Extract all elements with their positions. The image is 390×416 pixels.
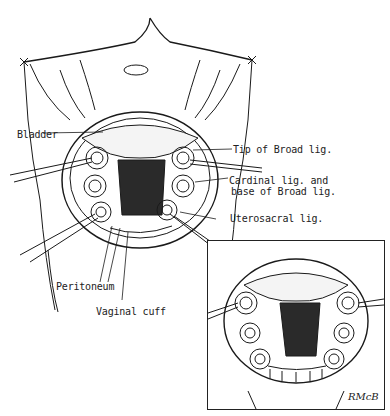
inset-drawing bbox=[208, 241, 384, 409]
illustration-canvas: Bladder Tip of Broad lig. Cardinal lig. … bbox=[0, 0, 390, 416]
artist-signature: RMcB bbox=[348, 391, 379, 402]
label-peritoneum: Peritoneum bbox=[56, 281, 114, 292]
label-vaginal-cuff: Vaginal cuff bbox=[96, 306, 166, 317]
inset-panel: RMcB bbox=[207, 240, 385, 410]
label-bladder: Bladder bbox=[17, 129, 58, 140]
label-cardinal-lig-2: base of Broad lig. bbox=[231, 186, 336, 197]
label-uterosacral-lig: Uterosacral lig. bbox=[230, 213, 323, 224]
label-tip-broad-lig: Tip of Broad lig. bbox=[233, 144, 332, 155]
label-cardinal-lig-1: Cardinal lig. and bbox=[229, 175, 328, 186]
